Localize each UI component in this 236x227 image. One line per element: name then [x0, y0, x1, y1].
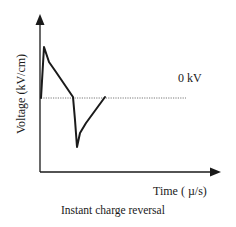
y-axis-arrow-icon [36, 14, 45, 25]
x-axis-label: Time ( µ/s) [153, 185, 207, 197]
x-axis-arrow-icon [210, 168, 221, 177]
chart-caption: Instant charge reversal [61, 205, 165, 217]
y-axis-label: Voltage (kV/cm) [15, 54, 27, 134]
zero-kv-annotation: 0 kV [178, 72, 202, 84]
voltage-waveform [41, 47, 105, 147]
